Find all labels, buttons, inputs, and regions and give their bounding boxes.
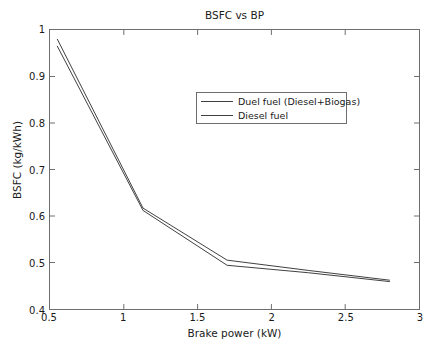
- legend-line-swatch: [201, 101, 233, 102]
- legend-box: Duel fuel (Diesel+Biogas) Diesel fuel: [196, 92, 347, 124]
- legend-item-label: Diesel fuel: [238, 111, 288, 121]
- x-tick-label: 2.5: [326, 312, 366, 323]
- x-tick-label: 1.5: [177, 312, 217, 323]
- plot-area: [49, 29, 420, 310]
- plot-svg: [50, 30, 419, 309]
- y-tick-label: 0.9: [5, 70, 45, 81]
- x-tick-label: 0.5: [29, 312, 69, 323]
- legend-line-swatch: [201, 115, 233, 116]
- x-tick-label: 3: [400, 312, 440, 323]
- y-axis-title: BSFC (kg/kWh): [11, 90, 23, 230]
- cropped-caption-fragment: [8, 0, 308, 8]
- x-tick-label: 1: [103, 312, 143, 323]
- y-tick-label: 1: [5, 24, 45, 35]
- legend-item-label: Duel fuel (Diesel+Biogas): [238, 97, 360, 107]
- legend-item: Duel fuel (Diesel+Biogas): [201, 95, 360, 108]
- x-axis-tick-labels: 0.511.522.53: [49, 312, 420, 328]
- legend-item: Diesel fuel: [201, 109, 288, 122]
- x-tick-label: 2: [252, 312, 292, 323]
- y-tick-label: 0.5: [5, 258, 45, 269]
- data-series-group: [57, 39, 389, 281]
- x-axis-ticks: [124, 30, 345, 309]
- figure-canvas: BSFC vs BP 0.40.50.60.70.80.91 0.511.522…: [0, 0, 447, 347]
- chart-title: BSFC vs BP: [49, 9, 420, 21]
- x-axis-title: Brake power (kW): [49, 327, 420, 339]
